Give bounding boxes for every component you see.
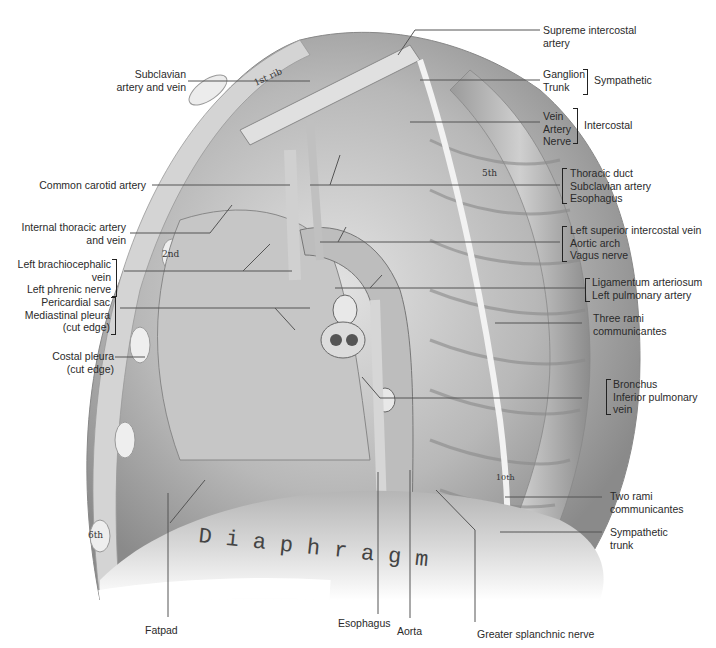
rib-label-5th: 5th: [482, 168, 497, 178]
rib-label-2nd: 2nd: [162, 249, 179, 259]
label-subclavian-artery-vein: Subclavian artery and vein: [117, 68, 186, 93]
rib-label-6th: 6th: [88, 530, 103, 540]
label-fatpad: Fatpad: [145, 624, 178, 637]
label-left-superior-intercostal-group: Left superior intercostal vein Aortic ar…: [570, 224, 701, 262]
label-aorta: Aorta: [397, 625, 422, 638]
group-label-intercostal: Intercostal: [584, 119, 632, 132]
rib-label-10th: 10th: [496, 473, 515, 482]
bracket-left-superior: [562, 226, 567, 262]
label-bronchus-group: Bronchus Inferior pulmonary vein: [613, 378, 698, 416]
label-internal-thoracic: Internal thoracic artery and vein: [22, 221, 126, 246]
label-ganglion-trunk: Ganglion Trunk: [543, 68, 585, 93]
bracket-pericardial: [111, 297, 116, 335]
bracket-brachiocephalic: [112, 259, 117, 297]
label-common-carotid-artery: Common carotid artery: [39, 179, 146, 192]
bracket-bronchus: [606, 379, 611, 415]
group-label-sympathetic: Sympathetic: [594, 74, 652, 87]
bracket-ligamentum: [585, 278, 590, 302]
bracket-intercostal: [573, 108, 578, 144]
bracket-thoracic-duct: [562, 168, 567, 204]
label-pericardial-mediastinal: Pericardial sac Mediastinal pleura (cut …: [25, 296, 110, 334]
label-two-rami-communicantes: Two rami communicantes: [610, 490, 684, 515]
label-brachiocephalic-phrenic: Left brachiocephalic vein Left phrenic n…: [18, 258, 111, 296]
label-vein-artery-nerve: Vein Artery Nerve: [543, 110, 571, 148]
label-greater-splanchnic-nerve: Greater splanchnic nerve: [477, 628, 594, 641]
label-ligamentum-group: Ligamentum arteriosum Left pulmonary art…: [592, 276, 702, 301]
bracket-sympathetic: [583, 69, 588, 95]
label-thoracic-duct-group: Thoracic duct Subclavian artery Esophagu…: [570, 167, 651, 205]
label-esophagus: Esophagus: [338, 617, 391, 630]
label-sympathetic-trunk: Sympathetic trunk: [610, 526, 668, 551]
label-three-rami-communicantes: Three rami communicantes: [593, 312, 667, 337]
label-supreme-intercostal: Supreme intercostal artery: [543, 24, 636, 49]
label-costal-pleura: Costal pleura (cut edge): [52, 350, 114, 375]
